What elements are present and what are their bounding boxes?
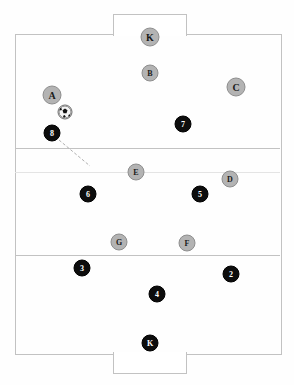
player-numbered-team-3-defender[interactable]: 3 bbox=[74, 260, 91, 277]
player-lettered-team-c-forward[interactable]: C bbox=[227, 78, 246, 97]
player-label: G bbox=[116, 238, 122, 246]
player-numbered-team-k-goalkeeper[interactable]: K bbox=[142, 335, 159, 352]
player-label: F bbox=[185, 239, 190, 247]
player-label: A bbox=[48, 90, 55, 100]
upper-third-line bbox=[15, 148, 280, 149]
player-numbered-team-2-defender[interactable]: 2 bbox=[223, 266, 240, 283]
player-lettered-team-d-midfielder[interactable]: D bbox=[222, 171, 239, 188]
player-label: C bbox=[232, 82, 239, 92]
player-label: 4 bbox=[155, 290, 159, 298]
player-numbered-team-4-defender[interactable]: 4 bbox=[149, 286, 166, 303]
halfway-line bbox=[15, 172, 280, 173]
player-lettered-team-g-midfielder[interactable]: G bbox=[111, 234, 128, 251]
player-label: D bbox=[227, 175, 233, 183]
player-lettered-team-k-goalkeeper[interactable]: K bbox=[141, 28, 160, 47]
player-numbered-team-6-midfielder[interactable]: 6 bbox=[80, 186, 97, 203]
player-lettered-team-a-forward[interactable]: A bbox=[43, 86, 62, 105]
player-label: K bbox=[146, 32, 154, 42]
player-label: 5 bbox=[198, 190, 202, 198]
player-label: 8 bbox=[50, 129, 54, 137]
player-label: 2 bbox=[229, 270, 233, 278]
player-numbered-team-8-forward[interactable]: 8 bbox=[44, 125, 61, 142]
player-lettered-team-e-midfielder[interactable]: E bbox=[128, 164, 145, 181]
soccer-diagram: KBACEDGF7865324K bbox=[0, 0, 294, 385]
bottom-goal-box bbox=[113, 352, 187, 374]
player-label: B bbox=[147, 69, 152, 77]
player-numbered-team-5-midfielder[interactable]: 5 bbox=[192, 186, 209, 203]
player-label: 6 bbox=[86, 190, 90, 198]
player-numbered-team-7-forward[interactable]: 7 bbox=[175, 116, 192, 133]
player-lettered-team-f-midfielder[interactable]: F bbox=[179, 235, 196, 252]
player-label: 3 bbox=[80, 264, 84, 272]
player-lettered-team-b-forward[interactable]: B bbox=[142, 65, 159, 82]
soccer-ball-icon bbox=[58, 105, 73, 120]
player-label: 7 bbox=[181, 120, 185, 128]
player-label: K bbox=[147, 339, 153, 347]
player-label: E bbox=[133, 168, 138, 176]
lower-third-line bbox=[15, 255, 280, 256]
